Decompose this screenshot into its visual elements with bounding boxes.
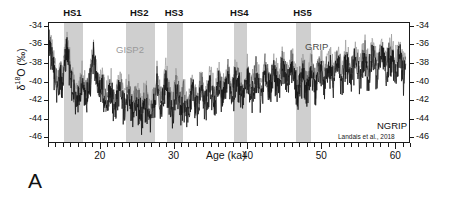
x-tick-label-60: 60 [390, 150, 401, 161]
citation-text: Landais et al., 2018 [338, 133, 395, 140]
y-tick-left--40 [44, 82, 48, 83]
x-tick-50 [321, 143, 322, 149]
x-tick-13 [48, 143, 49, 147]
x-tick-23 [122, 143, 123, 147]
x-tick-28 [159, 143, 160, 147]
y-tick-label-right--38: -38 [416, 58, 429, 67]
stadial-label-hs2: HS2 [130, 8, 148, 18]
y-axis-title-text: δ18O (‰) [14, 48, 26, 90]
y-tick-right--44 [410, 119, 414, 120]
x-tick-22 [114, 143, 115, 147]
x-tick-30 [174, 143, 175, 149]
y-tick-left--36 [44, 44, 48, 45]
y-tick-label-left--42: -42 [29, 95, 42, 104]
x-tick-48 [307, 143, 308, 147]
series-label-grip: GRIP [305, 42, 328, 52]
series-label-ngrip: NGRIP [377, 121, 407, 131]
x-tick-59 [388, 143, 389, 147]
x-tick-label-50: 50 [316, 150, 327, 161]
x-tick-17 [78, 143, 79, 147]
x-tick-57 [373, 143, 374, 147]
x-tick-15 [63, 143, 64, 147]
x-tick-43 [270, 143, 271, 147]
x-tick-32 [188, 143, 189, 147]
x-tick-19 [92, 143, 93, 147]
y-tick-left--38 [44, 63, 48, 64]
y-tick-left--34 [44, 26, 48, 27]
x-tick-label-40: 40 [242, 150, 253, 161]
y-tick-left--42 [44, 100, 48, 101]
y-tick-label-right--42: -42 [416, 95, 429, 104]
y-tick-right--34 [410, 26, 414, 27]
y-tick-label-left--46: -46 [29, 132, 42, 141]
panel-label: A [28, 170, 42, 192]
y-tick-label-left--34: -34 [29, 21, 42, 30]
x-tick-33 [196, 143, 197, 147]
trace-ngrip [49, 37, 406, 135]
y-tick-right--38 [410, 63, 414, 64]
ice-core-traces [49, 23, 409, 142]
y-tick-label-left--38: -38 [29, 58, 42, 67]
stadial-label-hs4: HS4 [230, 8, 248, 18]
y-tick-left--44 [44, 119, 48, 120]
y-tick-label-right--40: -40 [416, 77, 429, 86]
x-tick-40 [247, 143, 248, 149]
y-tick-label-right--46: -46 [416, 132, 429, 141]
x-tick-37 [225, 143, 226, 147]
x-tick-41 [255, 143, 256, 147]
x-tick-44 [277, 143, 278, 147]
x-tick-49 [314, 143, 315, 147]
x-tick-53 [344, 143, 345, 147]
y-tick-label-left--44: -44 [29, 114, 42, 123]
x-tick-52 [336, 143, 337, 147]
x-tick-56 [366, 143, 367, 147]
x-tick-27 [151, 143, 152, 147]
x-tick-45 [284, 143, 285, 147]
stadial-label-hs3: HS3 [165, 8, 183, 18]
x-tick-label-30: 30 [168, 150, 179, 161]
y-tick-left--46 [44, 137, 48, 138]
x-tick-39 [240, 143, 241, 147]
x-tick-21 [107, 143, 108, 147]
plot-area [48, 22, 410, 143]
delta-18o-ice-core-figure: HS1HS2HS3HS4HS5 δ18O (‰) Age (ka) GISP2 … [0, 0, 468, 208]
x-tick-54 [351, 143, 352, 147]
x-tick-38 [233, 143, 234, 147]
y-tick-right--36 [410, 44, 414, 45]
x-tick-14 [55, 143, 56, 147]
x-tick-42 [262, 143, 263, 147]
y-tick-label-left--40: -40 [29, 77, 42, 86]
series-label-gisp2: GISP2 [116, 45, 144, 55]
x-tick-29 [166, 143, 167, 147]
x-tick-25 [137, 143, 138, 147]
x-tick-24 [129, 143, 130, 147]
x-tick-31 [181, 143, 182, 147]
x-tick-16 [70, 143, 71, 147]
x-axis-title: Age (ka) [206, 150, 246, 161]
x-tick-51 [329, 143, 330, 147]
x-tick-20 [100, 143, 101, 149]
x-tick-58 [380, 143, 381, 147]
x-tick-35 [211, 143, 212, 147]
x-tick-55 [358, 143, 359, 147]
x-tick-62 [410, 143, 411, 147]
y-tick-label-right--34: -34 [416, 21, 429, 30]
y-tick-label-right--36: -36 [416, 39, 429, 48]
x-tick-18 [85, 143, 86, 147]
x-tick-34 [203, 143, 204, 147]
x-tick-label-20: 20 [94, 150, 105, 161]
stadial-label-hs1: HS1 [63, 8, 81, 18]
x-tick-46 [292, 143, 293, 147]
x-tick-26 [144, 143, 145, 147]
x-tick-47 [299, 143, 300, 147]
y-tick-label-left--36: -36 [29, 39, 42, 48]
x-tick-61 [403, 143, 404, 147]
y-tick-right--46 [410, 137, 414, 138]
y-axis-title: δ18O (‰) [12, 32, 27, 106]
y-tick-right--40 [410, 82, 414, 83]
x-tick-36 [218, 143, 219, 147]
y-tick-label-right--44: -44 [416, 114, 429, 123]
y-tick-right--42 [410, 100, 414, 101]
stadial-label-hs5: HS5 [293, 8, 311, 18]
x-tick-60 [395, 143, 396, 149]
